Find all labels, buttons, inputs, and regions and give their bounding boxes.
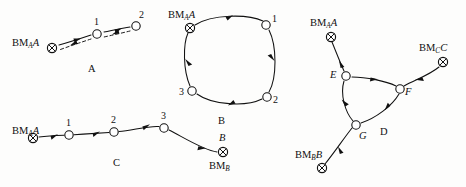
label-station-1: 1 [94, 17, 99, 27]
arrowhead-b-left [185, 59, 192, 66]
arrowhead-c-2 [93, 132, 100, 137]
panel-b-edges [184, 15, 275, 105]
arrowhead-d-c-f [415, 77, 424, 81]
label-station-1: 1 [272, 14, 277, 24]
panel-d-edges [325, 42, 439, 164]
arrowhead-c-1 [51, 134, 58, 140]
station-node-g[interactable] [352, 121, 360, 129]
panel-b-caption: B [218, 116, 225, 127]
edge-1-to-2 [269, 30, 275, 92]
station-node-e[interactable] [342, 72, 350, 80]
station-node-2[interactable] [263, 93, 271, 101]
edge-1-to-2 [74, 132, 109, 134]
label-bm-a: BMAA [12, 38, 39, 50]
label-station-e: E [330, 70, 336, 81]
label-station-3: 3 [179, 87, 184, 97]
arrowhead-d-e-g [342, 100, 349, 107]
edge-bmb-to-g [325, 128, 352, 164]
edge-bmc-to-f [404, 67, 439, 86]
arrowhead-d-g-f [385, 103, 391, 111]
arrowhead-b-right [268, 54, 275, 61]
panel-d-caption: D [380, 127, 388, 138]
figure-canvas [0, 0, 466, 187]
panel-b-nodes [185, 21, 271, 101]
traverse-types-figure: BMAA 1 2 A BMAA 1 2 3 B BMAA 1 2 3 B BMB… [0, 0, 466, 187]
panel-c-nodes [28, 124, 227, 157]
label-station-g: G [359, 131, 367, 142]
label-bm-a-suffix: A [331, 17, 337, 28]
edge-3-to-bma [184, 33, 190, 86]
label-bm-c: BMCC [419, 43, 447, 55]
label-bm-a: BMAA [310, 18, 337, 30]
label-bm-a-suffix: A [33, 37, 39, 48]
station-node-1[interactable] [262, 21, 270, 29]
panel-a-caption: A [88, 64, 96, 75]
label-bm-a-suffix: A [189, 9, 195, 20]
label-bm-c-suffix: C [440, 42, 447, 53]
label-bm-a: BMAA [12, 126, 39, 138]
label-bm-b-subscript: B [225, 165, 229, 173]
edge-2-to-3 [197, 94, 262, 104]
label-station-1: 1 [66, 118, 71, 128]
label-station-3: 3 [161, 111, 166, 121]
label-bm-b-suffix: B [316, 149, 322, 160]
arrowhead-d-a-e [339, 61, 344, 69]
station-node-1[interactable] [65, 131, 73, 139]
label-bm-b-top: B [219, 133, 225, 144]
label-bm-b: BMB [209, 161, 230, 173]
label-station-f: F [405, 87, 411, 98]
label-bm-a-suffix: A [33, 125, 39, 136]
station-node-1[interactable] [93, 30, 101, 38]
panel-c-caption: C [113, 158, 120, 169]
label-station-2: 2 [139, 10, 144, 20]
label-bm-a: BMAA [168, 10, 195, 22]
station-node-f[interactable] [396, 85, 404, 93]
label-station-2: 2 [111, 115, 116, 125]
edge-g-to-f [361, 94, 399, 123]
station-node-2[interactable] [110, 128, 118, 136]
edge-3-to-bmb [169, 130, 217, 152]
arrowhead-d-b-g [338, 147, 344, 155]
station-node-3[interactable] [160, 124, 168, 132]
station-node-2[interactable] [132, 22, 140, 30]
station-node-3[interactable] [188, 87, 196, 95]
label-bm-b: BMBB [295, 150, 322, 162]
edge-2-to-3 [119, 126, 159, 131]
label-station-2: 2 [273, 95, 278, 105]
edge-e-to-g [343, 81, 353, 121]
arrowhead-b-bottom [228, 100, 235, 105]
